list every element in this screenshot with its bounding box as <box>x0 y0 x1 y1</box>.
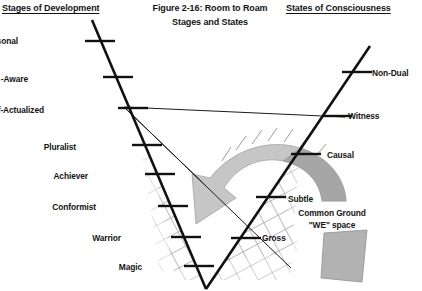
figure-room-to-roam: Stages of Development States of Consciou… <box>0 0 422 291</box>
left-heading: Stages of Development <box>2 3 99 13</box>
figure-title-line2: Stages and States <box>140 17 280 27</box>
we-space-block <box>321 230 367 282</box>
stage-label-7: Magic <box>52 262 142 272</box>
figure-title-line1: Figure 2-16: Room to Roam <box>140 3 280 13</box>
state-label-2: Causal <box>327 150 354 160</box>
common-ground-line1: Common Ground <box>276 208 388 218</box>
stage-label-6: Warrior <box>31 233 121 243</box>
stage-label-0: Trans-Personal <box>0 36 18 46</box>
stage-label-1: Construct -Aware <box>0 74 28 84</box>
state-label-4: Gross <box>262 233 286 243</box>
common-ground-line2: "WE" space <box>276 220 388 230</box>
stage-label-4: Achiever <box>0 171 88 181</box>
state-label-3: Subtle <box>288 194 313 204</box>
right-heading: States of Consciousness <box>286 3 391 13</box>
stage-label-2: Self-Actualized <box>0 105 44 115</box>
stage-label-5: Conformist <box>6 202 96 212</box>
stages-axis-line <box>92 20 206 289</box>
stage-label-3: Pluralist <box>0 142 76 152</box>
state-label-1: Witness <box>348 111 379 121</box>
state-label-0: Non-Dual <box>372 68 408 78</box>
